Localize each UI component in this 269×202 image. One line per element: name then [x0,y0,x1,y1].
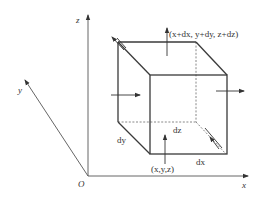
x-axis-label: x [241,180,246,190]
z-axis-label: z [75,15,80,25]
dz-label: dz [173,125,182,135]
cube-front-face [150,75,227,154]
dy-label: dy [117,135,127,145]
y-axis-label: y [17,85,22,95]
cube-edge [118,42,150,75]
dx-label: dx [196,157,206,167]
control-volume-diagram: z x y O (x+dx, y+dy, z+dz) (x,y,z) dy dz… [0,0,269,202]
near-corner-label: (x,y,z) [151,164,174,174]
far-corner-label: (x+dx, y+dy, z+dz) [169,29,238,39]
flux-arrow-y-out [205,128,222,148]
cube-edge [196,42,227,75]
y-axis [25,80,88,176]
origin-label: O [78,179,85,189]
